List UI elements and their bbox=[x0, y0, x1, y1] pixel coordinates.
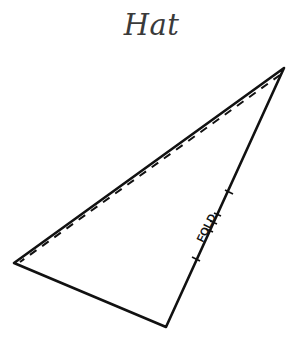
hat-pattern-diagram: FOLD bbox=[0, 0, 303, 346]
pattern-outline bbox=[14, 68, 284, 327]
fold-label: FOLD bbox=[194, 212, 218, 244]
seam-allowance-line bbox=[20, 75, 280, 262]
